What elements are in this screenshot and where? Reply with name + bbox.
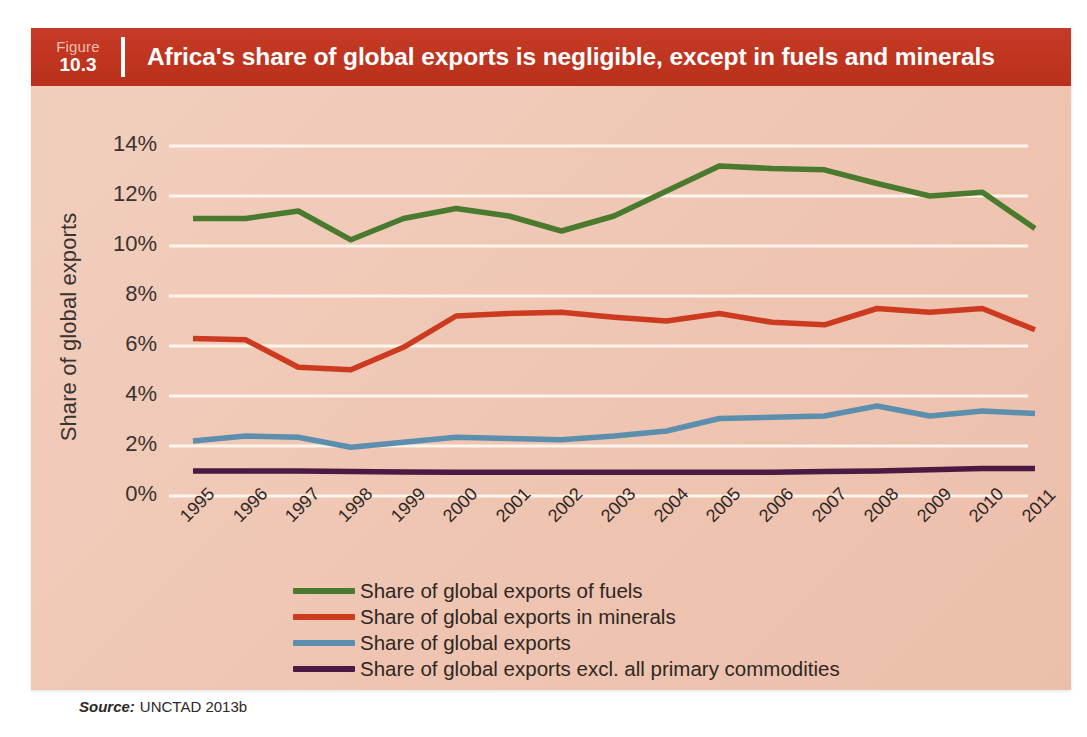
figure-number-block: Figure 10.3 [31,28,113,86]
y-tick-label: 6% [93,331,157,357]
legend-swatch-icon [293,640,355,646]
y-tick-label: 8% [93,281,157,307]
chart-area: Share of global exports 0%2%4%6%8%10%12%… [31,86,1071,690]
series-line-0 [193,166,1035,240]
legend-item[interactable]: Share of global exports excl. all primar… [293,656,840,682]
legend-swatch-icon [293,588,355,594]
series-line-1 [193,309,1035,370]
gridlines [169,146,1028,496]
source-line: Source:UNCTAD 2013b [79,698,247,715]
y-tick-label: 14% [93,131,157,157]
source-text: UNCTAD 2013b [140,698,247,715]
legend-label: Share of global exports excl. all primar… [360,657,840,681]
legend-swatch-icon [293,666,355,672]
legend-label: Share of global exports [360,631,571,655]
chart-legend: Share of global exports of fuelsShare of… [293,578,840,682]
series-line-2 [193,406,1035,447]
figure-label: Figure [56,39,100,55]
series-line-3 [193,469,1035,473]
legend-swatch-icon [293,614,355,620]
y-tick-label: 2% [93,431,157,457]
source-prefix: Source: [79,698,135,715]
legend-label: Share of global exports in minerals [360,605,676,629]
legend-label: Share of global exports of fuels [360,579,643,603]
figure-title: Africa's share of global exports is negl… [125,28,1071,86]
y-tick-label: 4% [93,381,157,407]
y-tick-label: 10% [93,231,157,257]
figure-header: Figure 10.3 Africa's share of global exp… [31,28,1071,86]
figure-card: Figure 10.3 Africa's share of global exp… [31,28,1071,690]
legend-item[interactable]: Share of global exports in minerals [293,604,840,630]
y-tick-label: 0% [93,481,157,507]
legend-item[interactable]: Share of global exports [293,630,840,656]
y-tick-label: 12% [93,181,157,207]
series-lines [193,166,1035,472]
legend-item[interactable]: Share of global exports of fuels [293,578,840,604]
figure-number: 10.3 [60,55,97,75]
